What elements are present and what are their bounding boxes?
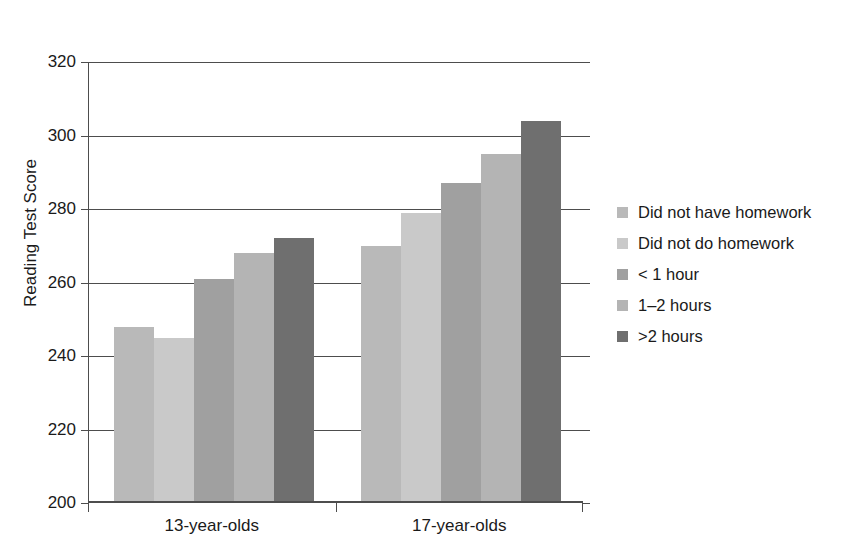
legend-item-label: 1–2 hours [638, 296, 711, 315]
bar [361, 246, 401, 503]
y-axis-tick [81, 503, 88, 504]
bar [401, 213, 441, 503]
y-axis-tick-right [583, 430, 590, 431]
bar [274, 238, 314, 503]
y-axis-tick-right [583, 209, 590, 210]
y-axis-title: Reading Test Score [21, 113, 41, 353]
bar-group [361, 62, 561, 503]
plot-area: 320300280260240220200 13-year-olds17-yea… [88, 62, 583, 503]
legend-item-label: < 1 hour [638, 265, 699, 284]
y-axis-tick-label: 320 [48, 52, 76, 72]
legend: Did not have homeworkDid not do homework… [617, 197, 811, 352]
bar [114, 327, 154, 503]
y-axis-tick-right [583, 62, 590, 63]
legend-swatch-icon [617, 238, 628, 249]
y-axis-tick [81, 62, 88, 63]
y-axis-tick-label: 220 [48, 420, 76, 440]
legend-swatch-icon [617, 300, 628, 311]
legend-swatch-icon [617, 331, 628, 342]
legend-swatch-icon [617, 207, 628, 218]
x-axis-tick [582, 503, 583, 512]
y-axis-tick [81, 136, 88, 137]
legend-swatch-icon [617, 269, 628, 280]
legend-item-label: Did not have homework [638, 203, 811, 222]
y-axis-tick-label: 300 [48, 126, 76, 146]
x-axis-tick [88, 503, 89, 512]
legend-item-label: >2 hours [638, 327, 703, 346]
y-axis-tick-label: 260 [48, 273, 76, 293]
y-axis-tick-right [583, 356, 590, 357]
y-axis-tick-label: 240 [48, 346, 76, 366]
y-axis-tick-label: 280 [48, 199, 76, 219]
y-axis-tick-right [583, 283, 590, 284]
bar-group [114, 62, 314, 503]
bar [154, 338, 194, 503]
y-axis-tick-label: 200 [48, 493, 76, 513]
bar [441, 183, 481, 503]
y-axis-tick [81, 430, 88, 431]
x-axis-category-label: 13-year-olds [165, 516, 260, 536]
x-axis-tick [336, 503, 337, 512]
bar [521, 121, 561, 503]
x-axis-category-label: 17-year-olds [412, 516, 507, 536]
bar [234, 253, 274, 503]
legend-item[interactable]: 1–2 hours [617, 290, 811, 321]
y-axis-tick [81, 283, 88, 284]
legend-item[interactable]: Did not have homework [617, 197, 811, 228]
y-axis-tick [81, 209, 88, 210]
y-axis-tick [81, 356, 88, 357]
legend-item-label: Did not do homework [638, 234, 794, 253]
bar [481, 154, 521, 503]
y-axis-tick-right [583, 136, 590, 137]
bar [194, 279, 234, 503]
legend-item[interactable]: < 1 hour [617, 259, 811, 290]
legend-item[interactable]: Did not do homework [617, 228, 811, 259]
y-axis-tick-right [583, 503, 590, 504]
legend-item[interactable]: >2 hours [617, 321, 811, 352]
